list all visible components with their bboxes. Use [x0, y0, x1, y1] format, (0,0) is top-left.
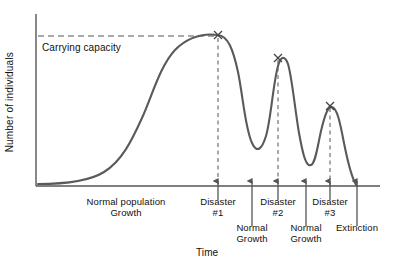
population-growth-figure: Number of individuals Carrying capacity …: [0, 0, 393, 276]
x-label-disaster-3: Disaster #3: [312, 196, 348, 218]
region-label-normal-population-growth: Normal population Growth: [87, 196, 166, 218]
x-label-disaster-1: Disaster #1: [200, 196, 236, 218]
x-label-normal-growth-2: Normal Growth: [290, 222, 321, 244]
x-label-normal-growth-1: Normal Growth: [236, 222, 267, 244]
y-axis-title: Number of individuals: [4, 52, 20, 152]
carrying-capacity-label: Carrying capacity: [42, 42, 121, 53]
x-label-disaster-2: Disaster #2: [260, 196, 296, 218]
x-axis-title: Time: [196, 247, 218, 258]
x-label-extinction: Extinction: [336, 222, 378, 233]
population-curve: [38, 35, 357, 186]
